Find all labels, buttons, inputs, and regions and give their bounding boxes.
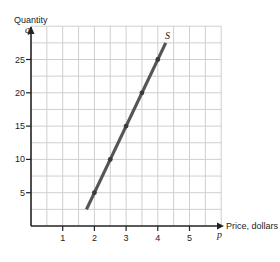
- data-point: [124, 124, 129, 129]
- data-point: [108, 157, 113, 162]
- data-point: [92, 190, 97, 195]
- x-tick-label: 4: [155, 233, 160, 243]
- y-axis-symbol: q: [25, 24, 30, 35]
- x-tick-label: 2: [92, 233, 97, 243]
- x-tick-label: 5: [187, 233, 192, 243]
- y-tick-label: 25: [15, 55, 25, 65]
- supply-chart: 12345510152025 Quantity q Price, dollars…: [0, 0, 280, 262]
- tick-labels: 12345510152025: [15, 55, 192, 244]
- x-tick-label: 3: [124, 233, 129, 243]
- y-tick-label: 20: [15, 88, 25, 98]
- x-tick-label: 1: [60, 233, 65, 243]
- y-axis-title: Quantity: [14, 15, 48, 25]
- data-point: [155, 57, 160, 62]
- x-axis-title: Price, dollars: [226, 221, 279, 231]
- data-point: [140, 90, 145, 95]
- y-tick-label: 5: [20, 188, 25, 198]
- y-tick-label: 15: [15, 121, 25, 131]
- curve-label: S: [165, 30, 170, 41]
- y-tick-label: 10: [15, 154, 25, 164]
- x-axis-symbol: p: [216, 229, 222, 240]
